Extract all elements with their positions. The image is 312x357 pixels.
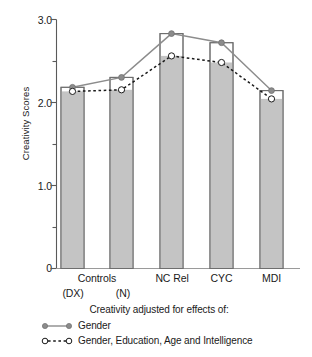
bar-controls-dx — [61, 87, 84, 268]
data-point — [118, 87, 124, 93]
legend-label-adjusted: Gender, Education, Age and Intelligence — [78, 335, 253, 346]
legend-key-dotted-open-circle-icon — [41, 335, 73, 347]
x-tick-label-cyc: CYC — [199, 272, 244, 284]
y-axis — [51, 20, 57, 269]
legend-label-gender: Gender — [78, 320, 111, 331]
data-point — [168, 53, 174, 59]
creativity-scores-chart: Creativity Scores 3.0 2.0 1.0 0 — [0, 0, 312, 357]
data-point — [119, 75, 125, 81]
data-point — [169, 31, 175, 37]
legend-key-solid-filled-circle-icon — [41, 320, 73, 332]
bar-controls-n — [110, 77, 133, 268]
data-point — [269, 88, 275, 94]
x-sub-label-dx: (DX) — [52, 287, 94, 299]
chart-legend: Creativity adjusted for effects of: Gend… — [0, 304, 312, 348]
x-sub-label-n: (N) — [102, 287, 144, 299]
data-point — [268, 96, 274, 102]
data-point — [69, 88, 75, 94]
data-point — [218, 59, 224, 65]
bar-cyc — [210, 43, 233, 269]
legend-entry-gender: Gender — [0, 318, 312, 333]
bar-nc-rel — [160, 34, 183, 269]
x-tick-label-mdi: MDI — [249, 272, 294, 284]
data-point — [219, 40, 225, 46]
x-tick-label-controls: Controls — [57, 272, 137, 284]
bar-mdi — [260, 91, 283, 269]
x-tick-label-nc-rel: NC Rel — [146, 272, 198, 284]
legend-title: Creativity adjusted for effects of: — [0, 304, 312, 315]
legend-entry-adjusted: Gender, Education, Age and Intelligence — [0, 333, 312, 348]
